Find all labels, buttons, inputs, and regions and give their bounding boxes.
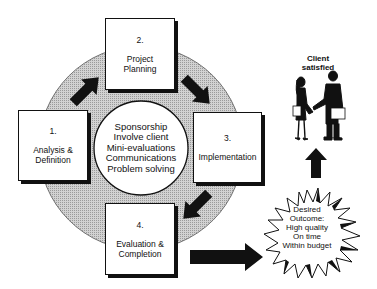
step-3-label-line1: Implementation [198, 152, 256, 162]
step-2-label-line1: Project [127, 54, 153, 64]
client-label-line2: satisfied [290, 63, 346, 72]
center-activities: Sponsorship Involve client Mini-evaluati… [94, 101, 188, 195]
step-2-number: 2. [136, 35, 143, 45]
desired-outcome-text: Desired Outcome: High quality On time Wi… [278, 205, 336, 250]
step-4-label-line2: Completion [119, 249, 162, 259]
center-item: Problem solving [107, 164, 175, 175]
outcome-line: Outcome: [278, 214, 336, 223]
arrow-to-client-icon [305, 148, 327, 178]
outcome-line: Desired [278, 205, 336, 214]
outcome-line: On time [278, 232, 336, 241]
step-2-label-line2: Planning [123, 64, 156, 74]
step-4-number: 4. [136, 220, 143, 230]
arrow-to-outcome-icon [190, 243, 263, 271]
client-label-line1: Client [290, 54, 346, 63]
client-satisfied-label: Client satisfied [290, 54, 346, 72]
step-1-box: 1. Analysis & Definition [18, 110, 88, 181]
step-2-box: 2. Project Planning [105, 18, 175, 90]
step-1-label-line1: Analysis & [33, 145, 73, 155]
step-4-label-line1: Evaluation & [116, 239, 164, 249]
step-1-label-line2: Definition [35, 155, 70, 165]
handshake-icon [293, 71, 345, 140]
step-4-box: 4. Evaluation & Completion [105, 203, 175, 275]
outcome-line: High quality [278, 223, 336, 232]
step-1-number: 1. [49, 126, 56, 136]
step-3-box: 3. Implementation [193, 112, 262, 183]
outcome-line: Within budget [278, 241, 336, 250]
step-3-number: 3. [224, 133, 231, 143]
